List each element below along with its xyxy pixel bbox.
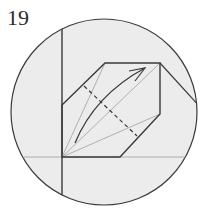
circle-view — [11, 19, 197, 205]
origami-diagram — [0, 0, 210, 214]
